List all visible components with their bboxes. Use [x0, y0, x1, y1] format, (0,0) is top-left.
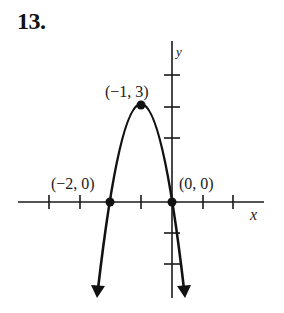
- vertex-label: (−1, 3): [105, 83, 149, 101]
- left-intercept-label: (−2, 0): [51, 175, 95, 193]
- x-axis-label: x: [249, 206, 257, 223]
- y-axis-label: y: [174, 44, 182, 59]
- origin-label: (0, 0): [179, 175, 214, 193]
- left-intercept-point: [106, 198, 115, 207]
- parabola-graph: (−1, 3) (−2, 0) (0, 0) x y: [0, 0, 284, 313]
- origin-point: [168, 198, 177, 207]
- left-arrowhead-icon: [91, 285, 105, 298]
- x-axis: [18, 195, 264, 209]
- right-arrowhead-icon: [177, 285, 191, 298]
- vertex-point: [137, 101, 146, 110]
